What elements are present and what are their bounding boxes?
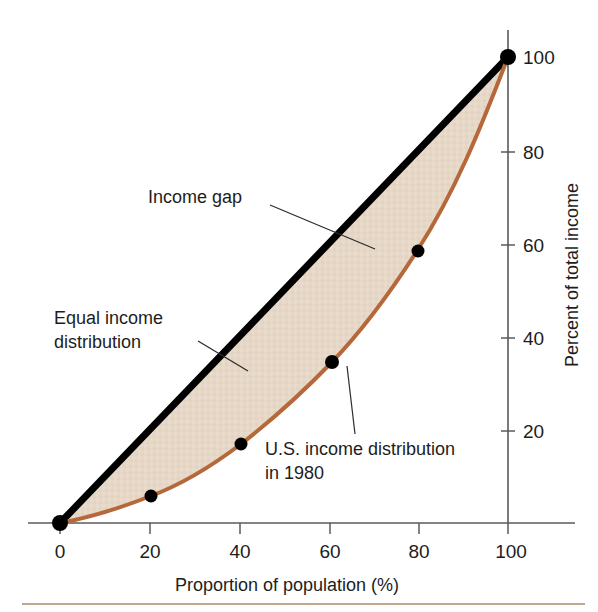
y-tick-label-80: 80 bbox=[523, 142, 544, 163]
x-tick-label-80: 80 bbox=[408, 541, 429, 562]
us-income-label-line2: in 1980 bbox=[265, 463, 324, 483]
y-tick-label-60: 60 bbox=[523, 235, 544, 256]
y-axis-title: Percent of total income bbox=[562, 183, 582, 367]
x-axis-tick-labels: 0 20 40 60 80 100 bbox=[55, 541, 527, 562]
x-tick-label-20: 20 bbox=[139, 541, 160, 562]
y-tick-label-40: 40 bbox=[523, 328, 544, 349]
chart-canvas: 0 20 40 60 80 100 100 80 60 40 20 bbox=[0, 0, 598, 612]
data-point-40 bbox=[235, 438, 248, 451]
x-tick-label-0: 0 bbox=[55, 541, 66, 562]
y-tick-label-20: 20 bbox=[523, 421, 544, 442]
x-axis-title: Proportion of population (%) bbox=[175, 575, 399, 595]
us-income-leader-line bbox=[347, 366, 355, 434]
x-axis-ticks bbox=[60, 523, 508, 534]
lorenz-curve-figure: 0 20 40 60 80 100 100 80 60 40 20 bbox=[0, 0, 598, 612]
y-axis-tick-labels: 100 80 60 40 20 bbox=[523, 47, 555, 442]
x-tick-label-100: 100 bbox=[495, 541, 527, 562]
equal-income-label-line2: distribution bbox=[54, 332, 141, 352]
income-gap-label: Income gap bbox=[148, 187, 242, 207]
x-tick-label-40: 40 bbox=[229, 541, 250, 562]
data-point-60 bbox=[325, 355, 339, 369]
data-point-0 bbox=[52, 515, 68, 531]
data-point-20 bbox=[145, 490, 158, 503]
equal-income-label-line1: Equal income bbox=[54, 308, 163, 328]
x-tick-label-60: 60 bbox=[319, 541, 340, 562]
data-point-80 bbox=[412, 245, 425, 258]
us-income-label-line1: U.S. income distribution bbox=[265, 439, 455, 459]
y-tick-label-100: 100 bbox=[523, 47, 555, 68]
data-point-100 bbox=[500, 49, 516, 65]
